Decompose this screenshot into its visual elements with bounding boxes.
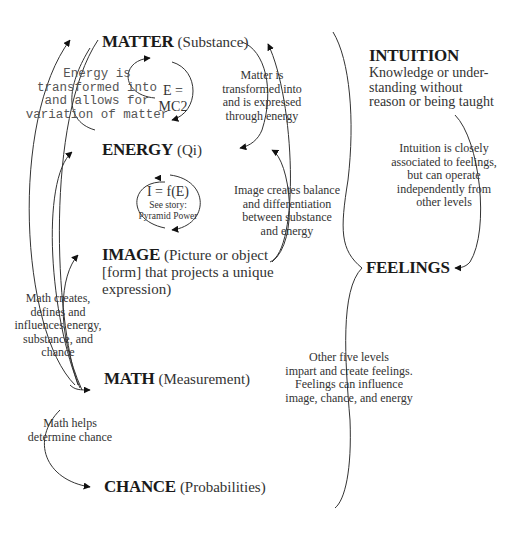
formula-ife: I = f(E) See story: Pyramid Power [128,184,208,222]
node-intuition: INTUITION Knowledge or under- standing w… [369,46,494,110]
note-line: image, chance, and energy [280,392,418,406]
note-energy-to-matter: Energy is transformed into and allows fo… [22,68,172,122]
node-math-sub: (Measurement) [158,371,250,387]
node-energy: ENERGY (Qi) [102,140,202,160]
node-energy-title: ENERGY [102,140,173,159]
node-chance: CHANCE (Probabilities) [104,477,266,497]
note-line: other levels [381,196,507,210]
note-line: Math creates, [8,292,108,306]
note-other-levels: Other five levels impart and create feel… [280,351,418,405]
note-line: and differentiation [229,198,345,212]
note-line: Matter is [210,69,314,83]
note-line: transformed into [210,83,314,97]
note-line: independently from [381,183,507,197]
desc-line: reason or being taught [369,95,494,110]
note-line: associated to feelings, [381,156,507,170]
node-intuition-desc: Knowledge or under- standing without rea… [369,66,494,110]
note-line: Intuition is closely [381,142,507,156]
note-image-balance: Image creates balance and differentiatio… [229,184,345,238]
note-line: variation of matter [22,109,172,123]
note-line: and energy [229,225,345,239]
formula-ife-text: I = f(E) [128,184,208,200]
note-line: but can operate [381,169,507,183]
node-matter-sub: (Substance) [178,34,249,50]
desc-line: Knowledge or under- [369,66,494,81]
node-image-title: IMAGE [102,245,160,264]
desc-line: standing without [369,81,494,96]
note-line: between substance [229,211,345,225]
node-image-sub3: expression) [102,281,274,298]
formula-ife-note2: Pyramid Power [128,211,208,222]
note-line: influences energy, [8,319,108,333]
note-intuition-feelings: Intuition is closely associated to feeli… [381,142,507,210]
note-line: substance, and [8,333,108,347]
node-math-title: MATH [104,369,154,388]
note-line: through energy [210,110,314,124]
node-matter: MATTER (Substance) [102,32,248,52]
formula-ife-note1: See story: [128,200,208,211]
node-image-sub1: (Picture or object [164,247,268,263]
note-math-helps: Math helps determine chance [20,417,120,444]
note-line: transformed into [22,82,172,96]
node-energy-sub: (Qi) [177,142,202,158]
note-line: and is expressed [210,96,314,110]
note-line: Feelings can influence [280,378,418,392]
node-image-sub2: [form] that projects a unique [102,264,274,281]
note-line: impart and create feelings. [280,365,418,379]
node-feelings: FEELINGS [366,258,450,278]
note-line: chance [8,346,108,360]
node-chance-title: CHANCE [104,477,176,496]
note-line: Image creates balance [229,184,345,198]
node-matter-title: MATTER [102,32,174,51]
note-line: Math helps [20,417,120,431]
note-line: determine chance [20,431,120,445]
node-chance-sub: (Probabilities) [180,479,266,495]
note-line: defines and [8,306,108,320]
note-matter-to-energy: Matter is transformed into and is expres… [210,69,314,123]
note-math-creates: Math creates, defines and influences ene… [8,292,108,360]
note-line: Energy is [22,68,172,82]
node-image: IMAGE (Picture or object [form] that pro… [102,246,274,298]
note-line: Other five levels [280,351,418,365]
node-math: MATH (Measurement) [104,369,250,389]
node-intuition-title: INTUITION [369,46,494,66]
note-line: and allows for [22,95,172,109]
